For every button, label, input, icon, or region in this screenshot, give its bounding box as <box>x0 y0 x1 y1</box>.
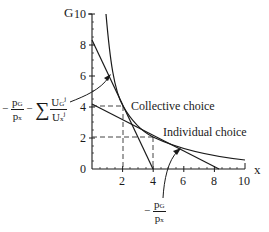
y-axis-label: G <box>64 5 73 20</box>
x-tick-2: 2 <box>119 174 125 188</box>
y-tick-4: 4 <box>80 100 86 114</box>
marginal-utility-fraction: UGj Uxj <box>50 96 67 122</box>
individual-slope-formula: − pG px <box>144 199 166 224</box>
x-tick-8: 8 <box>211 174 217 188</box>
price-ratio-fraction: pG px <box>153 199 166 224</box>
x-tick-6: 6 <box>180 174 186 188</box>
collective-slope-arrow <box>70 77 109 102</box>
collective-slope-formula: − pG px − ∑ UGj Uxj <box>2 96 67 122</box>
x-tick-10: 10 <box>238 174 250 188</box>
collective-choice-label: Collective choice <box>131 99 215 113</box>
y-tick-2: 2 <box>80 131 86 145</box>
price-ratio-fraction: pG px <box>11 97 24 122</box>
x-ticks <box>123 163 245 172</box>
y-tick-10: 10 <box>74 7 86 21</box>
minus-sign: − <box>26 102 32 114</box>
minus-sign: − <box>2 102 8 114</box>
y-tick-6: 6 <box>80 69 86 83</box>
x-tick-4: 4 <box>150 174 156 188</box>
sum-symbol: ∑ <box>35 98 49 120</box>
minus-sign: − <box>144 204 150 216</box>
x-axis-label: x <box>254 162 261 177</box>
individual-choice-label: Individual choice <box>163 125 247 139</box>
y-tick-0: 0 <box>80 162 86 176</box>
guide-lines <box>92 106 153 169</box>
y-tick-8: 8 <box>80 38 86 52</box>
individual-slope-arrow <box>163 151 178 198</box>
